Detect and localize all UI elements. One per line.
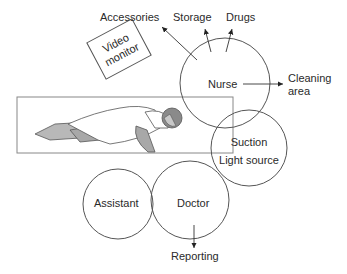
patient-figure-icon bbox=[35, 106, 182, 152]
arrow-drugs bbox=[226, 29, 232, 52]
label-accessories: Accessories bbox=[100, 11, 159, 24]
cleaning-line1: Cleaning bbox=[288, 72, 331, 85]
label-reporting: Reporting bbox=[171, 250, 219, 263]
label-suction-light: Suction Light source bbox=[211, 133, 287, 169]
cleaning-line2: area bbox=[288, 85, 331, 98]
label-nurse: Nurse bbox=[208, 78, 237, 91]
label-assistant: Assistant bbox=[94, 197, 139, 210]
diagram-canvas bbox=[0, 0, 347, 274]
suction-line2: Light source bbox=[211, 151, 287, 169]
label-doctor: Doctor bbox=[177, 197, 209, 210]
suction-line1: Suction bbox=[211, 133, 287, 151]
label-storage: Storage bbox=[173, 11, 212, 24]
arrow-accessories bbox=[162, 27, 197, 60]
label-cleaning-area: Cleaning area bbox=[288, 72, 331, 98]
label-drugs: Drugs bbox=[226, 11, 255, 24]
